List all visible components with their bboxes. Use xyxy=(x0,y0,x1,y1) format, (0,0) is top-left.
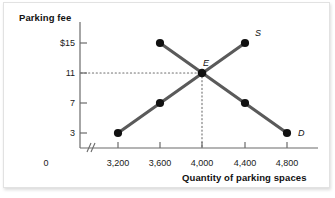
demand-point-3600-15 xyxy=(156,39,164,47)
supply-point-3200-3 xyxy=(114,129,122,137)
economics-supply-demand-figure: Parking fee Quantity of parking spaces $… xyxy=(0,0,335,198)
demand-point-4800-3 xyxy=(283,129,291,137)
chart-plot-area xyxy=(0,0,335,198)
supply-point-4400-15 xyxy=(241,39,249,47)
supply-point-3600-7 xyxy=(156,99,164,107)
demand-point-4400-7 xyxy=(241,99,249,107)
equilibrium-point-marker xyxy=(198,69,207,78)
